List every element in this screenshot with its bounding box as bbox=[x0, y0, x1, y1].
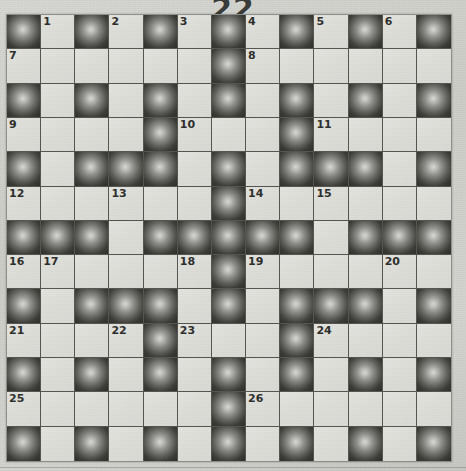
grid-letter-cell[interactable]: 1 bbox=[41, 15, 75, 49]
grid-letter-cell[interactable] bbox=[246, 152, 280, 186]
grid-letter-cell[interactable] bbox=[75, 392, 109, 426]
grid-letter-cell[interactable]: 7 bbox=[7, 49, 41, 83]
grid-letter-cell[interactable] bbox=[314, 358, 348, 392]
grid-letter-cell[interactable] bbox=[109, 221, 143, 255]
grid-letter-cell[interactable]: 25 bbox=[7, 392, 41, 426]
grid-letter-cell[interactable] bbox=[109, 427, 143, 461]
grid-letter-cell[interactable] bbox=[212, 118, 246, 152]
grid-letter-cell[interactable] bbox=[246, 118, 280, 152]
grid-letter-cell[interactable] bbox=[144, 392, 178, 426]
grid-letter-cell[interactable] bbox=[383, 427, 417, 461]
grid-letter-cell[interactable] bbox=[75, 49, 109, 83]
crossword-grid[interactable]: 1234567891011121314151617181920212223242… bbox=[6, 14, 452, 462]
grid-letter-cell[interactable] bbox=[383, 187, 417, 221]
grid-letter-cell[interactable] bbox=[109, 118, 143, 152]
grid-letter-cell[interactable] bbox=[246, 289, 280, 323]
grid-letter-cell[interactable]: 13 bbox=[109, 187, 143, 221]
grid-letter-cell[interactable] bbox=[75, 187, 109, 221]
grid-letter-cell[interactable] bbox=[383, 49, 417, 83]
grid-letter-cell[interactable]: 18 bbox=[178, 255, 212, 289]
grid-letter-cell[interactable] bbox=[383, 289, 417, 323]
grid-letter-cell[interactable] bbox=[144, 187, 178, 221]
grid-letter-cell[interactable] bbox=[41, 324, 75, 358]
grid-letter-cell[interactable] bbox=[417, 49, 451, 83]
grid-letter-cell[interactable] bbox=[383, 152, 417, 186]
grid-letter-cell[interactable] bbox=[41, 358, 75, 392]
grid-letter-cell[interactable] bbox=[349, 392, 383, 426]
grid-letter-cell[interactable] bbox=[144, 255, 178, 289]
grid-letter-cell[interactable] bbox=[41, 187, 75, 221]
grid-letter-cell[interactable] bbox=[314, 84, 348, 118]
grid-letter-cell[interactable] bbox=[41, 427, 75, 461]
grid-letter-cell[interactable]: 22 bbox=[109, 324, 143, 358]
grid-letter-cell[interactable] bbox=[314, 255, 348, 289]
grid-letter-cell[interactable]: 15 bbox=[314, 187, 348, 221]
grid-letter-cell[interactable] bbox=[75, 255, 109, 289]
grid-letter-cell[interactable] bbox=[109, 255, 143, 289]
grid-letter-cell[interactable]: 26 bbox=[246, 392, 280, 426]
grid-letter-cell[interactable] bbox=[417, 187, 451, 221]
grid-letter-cell[interactable] bbox=[280, 187, 314, 221]
grid-letter-cell[interactable]: 23 bbox=[178, 324, 212, 358]
grid-letter-cell[interactable] bbox=[41, 49, 75, 83]
grid-letter-cell[interactable] bbox=[178, 152, 212, 186]
grid-letter-cell[interactable] bbox=[280, 49, 314, 83]
grid-letter-cell[interactable] bbox=[349, 255, 383, 289]
grid-letter-cell[interactable]: 10 bbox=[178, 118, 212, 152]
grid-letter-cell[interactable] bbox=[41, 84, 75, 118]
grid-letter-cell[interactable]: 14 bbox=[246, 187, 280, 221]
grid-letter-cell[interactable] bbox=[41, 289, 75, 323]
grid-letter-cell[interactable] bbox=[314, 392, 348, 426]
grid-letter-cell[interactable]: 2 bbox=[109, 15, 143, 49]
grid-letter-cell[interactable] bbox=[75, 118, 109, 152]
grid-letter-cell[interactable] bbox=[349, 49, 383, 83]
grid-letter-cell[interactable] bbox=[349, 324, 383, 358]
grid-letter-cell[interactable] bbox=[383, 358, 417, 392]
grid-letter-cell[interactable]: 24 bbox=[314, 324, 348, 358]
grid-letter-cell[interactable] bbox=[417, 255, 451, 289]
grid-letter-cell[interactable]: 9 bbox=[7, 118, 41, 152]
grid-letter-cell[interactable] bbox=[178, 427, 212, 461]
grid-letter-cell[interactable] bbox=[383, 324, 417, 358]
grid-letter-cell[interactable] bbox=[280, 255, 314, 289]
grid-letter-cell[interactable]: 19 bbox=[246, 255, 280, 289]
grid-letter-cell[interactable]: 6 bbox=[383, 15, 417, 49]
grid-letter-cell[interactable] bbox=[212, 324, 246, 358]
grid-letter-cell[interactable] bbox=[314, 49, 348, 83]
grid-letter-cell[interactable] bbox=[109, 358, 143, 392]
grid-letter-cell[interactable]: 5 bbox=[314, 15, 348, 49]
grid-letter-cell[interactable] bbox=[144, 49, 178, 83]
grid-letter-cell[interactable] bbox=[41, 152, 75, 186]
grid-letter-cell[interactable] bbox=[75, 324, 109, 358]
grid-letter-cell[interactable]: 21 bbox=[7, 324, 41, 358]
grid-letter-cell[interactable] bbox=[178, 358, 212, 392]
grid-letter-cell[interactable] bbox=[178, 49, 212, 83]
grid-letter-cell[interactable] bbox=[246, 358, 280, 392]
grid-letter-cell[interactable]: 3 bbox=[178, 15, 212, 49]
grid-letter-cell[interactable]: 4 bbox=[246, 15, 280, 49]
grid-letter-cell[interactable] bbox=[109, 49, 143, 83]
grid-letter-cell[interactable] bbox=[178, 392, 212, 426]
grid-letter-cell[interactable] bbox=[349, 118, 383, 152]
grid-letter-cell[interactable] bbox=[383, 118, 417, 152]
grid-letter-cell[interactable] bbox=[41, 392, 75, 426]
grid-letter-cell[interactable]: 20 bbox=[383, 255, 417, 289]
grid-letter-cell[interactable] bbox=[178, 187, 212, 221]
grid-letter-cell[interactable] bbox=[246, 84, 280, 118]
grid-letter-cell[interactable] bbox=[383, 392, 417, 426]
grid-letter-cell[interactable]: 11 bbox=[314, 118, 348, 152]
grid-letter-cell[interactable] bbox=[246, 324, 280, 358]
grid-letter-cell[interactable] bbox=[314, 427, 348, 461]
grid-letter-cell[interactable] bbox=[246, 427, 280, 461]
grid-letter-cell[interactable] bbox=[178, 289, 212, 323]
grid-letter-cell[interactable] bbox=[314, 221, 348, 255]
grid-letter-cell[interactable] bbox=[349, 187, 383, 221]
grid-letter-cell[interactable] bbox=[417, 324, 451, 358]
grid-letter-cell[interactable] bbox=[383, 84, 417, 118]
grid-letter-cell[interactable]: 8 bbox=[246, 49, 280, 83]
grid-letter-cell[interactable] bbox=[41, 118, 75, 152]
grid-letter-cell[interactable]: 16 bbox=[7, 255, 41, 289]
grid-letter-cell[interactable] bbox=[109, 392, 143, 426]
grid-letter-cell[interactable] bbox=[417, 392, 451, 426]
grid-letter-cell[interactable]: 12 bbox=[7, 187, 41, 221]
